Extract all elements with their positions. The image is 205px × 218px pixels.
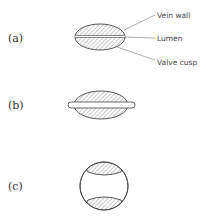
panel-c: (c) <box>8 161 128 211</box>
flattened-vein-shape <box>68 91 135 119</box>
leader-lumen <box>125 37 155 38</box>
panel-label-a: (a) <box>8 32 23 45</box>
panel-b: (b) <box>8 91 135 119</box>
panel-a: (a) Vein wall Lumen Valve cusp <box>8 11 197 67</box>
valve-cusp-top <box>86 161 122 175</box>
callout-lumen: Lumen <box>157 34 183 43</box>
panel-label-c: (c) <box>8 180 23 193</box>
lumen-tube <box>68 102 135 108</box>
callout-valve-cusp: Valve cusp <box>157 58 197 67</box>
callout-vein-wall: Vein wall <box>157 11 190 20</box>
panel-label-b: (b) <box>8 99 24 112</box>
valve-cusp-bottom <box>86 197 122 211</box>
leader-valve-cusp <box>117 47 155 60</box>
open-vein-shape <box>80 161 128 211</box>
closed-vein-shape <box>75 24 125 50</box>
leader-vein-wall <box>124 15 155 30</box>
valve-diagram: (a) Vein wall Lumen Valve cusp (b) (c) <box>0 0 205 218</box>
